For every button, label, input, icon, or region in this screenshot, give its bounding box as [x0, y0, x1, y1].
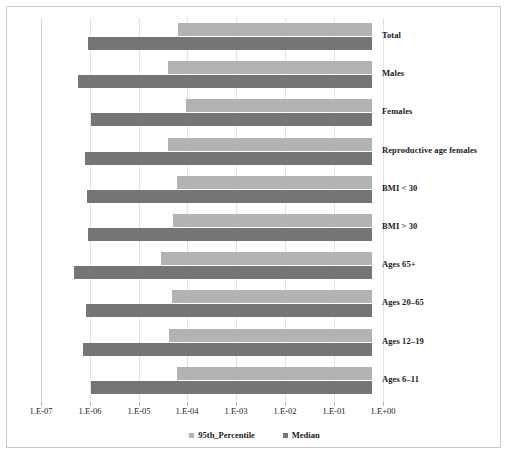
plot-area: TotalMalesFemalesReproductive age female… [0, 0, 509, 463]
bar-median [91, 113, 372, 126]
legend-item: 95th_Percentile [189, 430, 255, 440]
category-label: Ages 20–65 [382, 297, 424, 307]
bar-group: Reproductive age females [0, 137, 509, 175]
bar-95th-percentile [169, 329, 372, 342]
bar-median [88, 228, 372, 241]
bar-95th-percentile [168, 61, 372, 74]
chart-legend: 95th_PercentileMedian [0, 430, 509, 440]
bar-median [87, 190, 372, 203]
bar-95th-percentile [173, 214, 372, 227]
bar-95th-percentile [186, 99, 372, 112]
x-tick-label: 1.E-01 [323, 406, 346, 416]
bar-median [85, 152, 372, 165]
legend-label: Median [292, 430, 320, 440]
category-label: Ages 6–11 [382, 374, 419, 384]
bar-95th-percentile [177, 176, 372, 189]
legend-label: 95th_Percentile [198, 430, 255, 440]
bar-group: Total [0, 22, 509, 60]
bar-group: Ages 65+ [0, 251, 509, 289]
bar-95th-percentile [168, 138, 372, 151]
category-label: Males [382, 68, 404, 78]
category-label: BMI < 30 [382, 183, 417, 193]
bar-group: BMI > 30 [0, 213, 509, 251]
category-label: BMI > 30 [382, 221, 417, 231]
category-label: Reproductive age females [382, 145, 477, 155]
legend-item: Median [283, 430, 320, 440]
legend-swatch-icon [189, 433, 194, 438]
x-tick-label: 1.E-06 [79, 406, 102, 416]
bar-group: Ages 12–19 [0, 328, 509, 366]
category-label: Females [382, 106, 412, 116]
x-tick-label: 1.E-02 [274, 406, 297, 416]
bar-group: Ages 20–65 [0, 289, 509, 327]
x-tick-label: 1.E-03 [225, 406, 248, 416]
bar-95th-percentile [177, 367, 372, 380]
bar-group: Ages 6–11 [0, 366, 509, 404]
bar-median [86, 304, 372, 317]
bar-median [74, 266, 372, 279]
x-tick-label: 1.E-05 [128, 406, 151, 416]
bar-95th-percentile [178, 23, 372, 36]
bar-median [78, 75, 372, 88]
bar-95th-percentile [161, 252, 372, 265]
legend-swatch-icon [283, 433, 288, 438]
bar-median [91, 381, 372, 394]
bar-group: BMI < 30 [0, 175, 509, 213]
category-label: Ages 12–19 [382, 336, 424, 346]
bar-95th-percentile [172, 290, 372, 303]
category-label: Total [382, 30, 401, 40]
x-tick-label: 1.E-07 [30, 406, 53, 416]
bar-group: Females [0, 98, 509, 136]
bar-group: Males [0, 60, 509, 98]
x-tick-label: 1.E+00 [371, 406, 396, 416]
chart-figure: TotalMalesFemalesReproductive age female… [0, 0, 509, 463]
category-label: Ages 65+ [382, 259, 416, 269]
bar-median [88, 37, 372, 50]
bar-median [83, 343, 372, 356]
x-tick-label: 1.E-04 [176, 406, 199, 416]
